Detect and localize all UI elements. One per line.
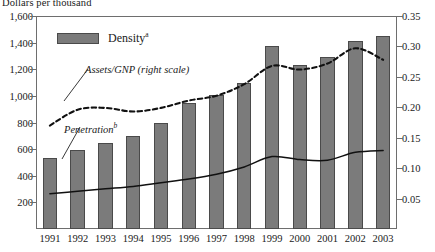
annotation-leader-lines <box>0 0 435 252</box>
x-tick-label-1999: 1999 <box>262 233 283 244</box>
x-tick-label-1991: 1991 <box>39 233 60 244</box>
x-tick-label-1993: 1993 <box>95 233 116 244</box>
x-tick-label-2001: 2001 <box>317 233 338 244</box>
x-tick-label-1992: 1992 <box>67 233 88 244</box>
x-tick-label-1996: 1996 <box>178 233 199 244</box>
x-axis-labels: 1991199219931994199519961997199819992000… <box>36 233 397 249</box>
x-tick-label-1994: 1994 <box>123 233 144 244</box>
chart-container: Dollars per thousand 2004006008001,0001,… <box>0 0 435 252</box>
x-tick-label-2002: 2002 <box>345 233 366 244</box>
x-tick-label-1995: 1995 <box>150 233 171 244</box>
x-tick-label-2003: 2003 <box>373 233 394 244</box>
x-tick-label-1998: 1998 <box>234 233 255 244</box>
x-tick-label-1997: 1997 <box>206 233 227 244</box>
x-tick-label-2000: 2000 <box>289 233 310 244</box>
